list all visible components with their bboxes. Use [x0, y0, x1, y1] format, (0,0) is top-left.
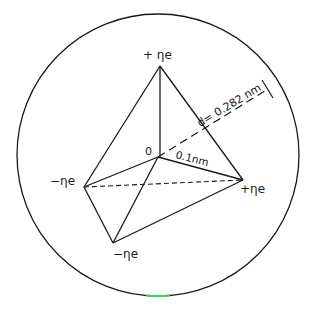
charge-left-label: −ηe [50, 174, 75, 188]
spoke-left [84, 157, 158, 187]
charge-top-label: + ηe [143, 48, 172, 62]
charge-right-label: +ηe [240, 182, 265, 196]
center-label: 0 [145, 145, 152, 158]
radius-label: 0.1nm [175, 148, 210, 168]
green-mark [146, 296, 170, 297]
spoke-bottom [113, 157, 158, 243]
diameter-tick [262, 80, 273, 98]
edge-left-right-hidden [84, 180, 243, 187]
tetrahedron-diagram: + ηe −ηe −ηe +ηe 0 0.1nm d= 0.282 nm [0, 0, 314, 310]
diameter-label: d= 0.282 nm [195, 81, 264, 129]
edge-top-left [84, 66, 160, 187]
edge-bottom-right [113, 180, 243, 243]
charge-bottom-label: −ηe [113, 247, 138, 261]
edge-left-bottom [84, 187, 113, 243]
